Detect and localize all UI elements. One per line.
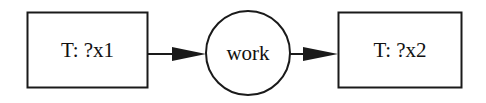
node-box-x1: T: ?x1: [28, 13, 148, 88]
node-label: T: ?x1: [61, 38, 114, 62]
node-label: work: [226, 41, 270, 65]
arrowhead-icon: [172, 47, 206, 61]
node-label: T: ?x2: [373, 38, 426, 62]
edge-x1-to-work: [148, 47, 206, 61]
edge-work-to-x2: [290, 47, 338, 61]
diagram-canvas: T: ?x1 work T: ?x2: [0, 0, 486, 103]
arrowhead-icon: [303, 47, 338, 61]
node-box-x2: T: ?x2: [339, 13, 462, 88]
node-circle-work: work: [206, 11, 290, 95]
